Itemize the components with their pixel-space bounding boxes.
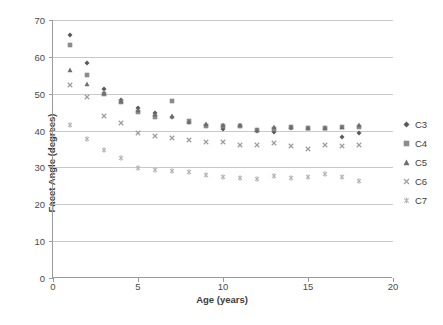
data-point-c5	[220, 122, 226, 128]
data-point-c3	[67, 32, 73, 38]
data-point-c5	[339, 124, 345, 130]
data-point-c7	[339, 173, 346, 180]
data-point-c6	[305, 145, 312, 152]
data-point-c7	[118, 155, 125, 162]
y-tick-mark	[49, 241, 53, 242]
data-point-c6	[67, 81, 74, 88]
cross-marker-icon	[400, 175, 413, 188]
data-point-c4	[67, 42, 73, 48]
y-tick-mark	[49, 57, 53, 58]
x-tick-label: 20	[378, 281, 408, 292]
gridline	[53, 204, 393, 205]
data-point-c7	[67, 121, 74, 128]
data-point-c6	[118, 120, 125, 127]
data-point-c6	[135, 130, 142, 137]
data-point-c6	[237, 142, 244, 149]
diamond-marker-icon	[400, 118, 413, 131]
data-point-c5	[305, 125, 311, 131]
legend-item-c5[interactable]: C5	[400, 153, 443, 172]
x-tick-label: 10	[208, 281, 238, 292]
legend-label: C7	[415, 195, 427, 206]
legend-label: C3	[415, 119, 427, 130]
data-point-c6	[322, 141, 329, 148]
y-tick-label: 40	[13, 125, 45, 136]
data-point-c5	[254, 127, 260, 133]
data-point-c6	[186, 137, 193, 144]
data-point-c7	[203, 172, 210, 179]
gridline	[53, 57, 393, 58]
data-point-c4	[169, 98, 175, 104]
y-tick-label: 20	[13, 199, 45, 210]
facet-angle-scatter-chart: Facet Angle (degrees) Age (years) 010203…	[0, 0, 443, 325]
x-axis-title: Age (years)	[52, 294, 392, 305]
gridline	[53, 167, 393, 168]
data-point-c6	[288, 142, 295, 149]
data-point-c7	[152, 166, 159, 173]
data-point-c6	[203, 138, 210, 145]
x-tick-label: 15	[293, 281, 323, 292]
x-tick-label: 0	[38, 281, 68, 292]
data-point-c7	[288, 174, 295, 181]
chart-legend: C3C4C5C6C7	[400, 115, 443, 210]
y-tick-mark	[49, 204, 53, 205]
data-point-c6	[152, 132, 159, 139]
legend-label: C4	[415, 138, 427, 149]
square-marker-icon	[400, 137, 413, 150]
data-point-c5	[84, 81, 90, 87]
gridline	[53, 20, 393, 21]
data-point-c7	[220, 174, 227, 181]
y-tick-mark	[49, 167, 53, 168]
data-point-c5	[203, 121, 209, 127]
data-point-c6	[220, 138, 227, 145]
data-point-c5	[152, 111, 158, 117]
data-point-c6	[101, 113, 108, 120]
y-tick-label: 30	[13, 162, 45, 173]
data-point-c6	[84, 94, 91, 101]
data-point-c5	[186, 119, 192, 125]
legend-label: C6	[415, 176, 427, 187]
y-tick-mark	[49, 94, 53, 95]
data-point-c6	[169, 135, 176, 142]
data-point-c5	[101, 90, 107, 96]
data-point-c6	[339, 143, 346, 150]
data-point-c3	[356, 130, 362, 136]
data-point-c3	[84, 60, 90, 66]
data-point-c7	[169, 167, 176, 174]
data-point-c6	[356, 142, 363, 149]
data-point-c6	[254, 142, 261, 149]
y-tick-label: 70	[13, 15, 45, 26]
y-tick-label: 10	[13, 236, 45, 247]
data-point-c5	[237, 122, 243, 128]
data-point-c5	[67, 67, 73, 73]
data-point-c5	[288, 124, 294, 130]
data-point-c7	[135, 165, 142, 172]
data-point-c5	[135, 107, 141, 113]
data-point-c6	[271, 139, 278, 146]
y-tick-label: 50	[13, 88, 45, 99]
data-point-c7	[305, 174, 312, 181]
legend-item-c7[interactable]: C7	[400, 191, 443, 210]
y-tick-mark	[49, 131, 53, 132]
legend-item-c6[interactable]: C6	[400, 172, 443, 191]
data-point-c3	[339, 134, 345, 140]
data-point-c7	[84, 135, 91, 142]
data-point-c4	[84, 72, 90, 78]
triangle-marker-icon	[400, 156, 413, 169]
gridline	[53, 241, 393, 242]
plot-area: 010203040506070 05101520	[52, 20, 392, 278]
x-tick-label: 5	[123, 281, 153, 292]
data-point-c7	[322, 170, 329, 177]
data-point-c7	[254, 176, 261, 183]
asterisk-marker-icon	[400, 194, 413, 207]
data-point-c5	[271, 124, 277, 130]
data-point-c5	[169, 113, 175, 119]
data-point-c7	[101, 147, 108, 154]
legend-label: C5	[415, 157, 427, 168]
data-point-c5	[118, 98, 124, 104]
data-point-c7	[356, 177, 363, 184]
y-tick-label: 60	[13, 51, 45, 62]
legend-item-c3[interactable]: C3	[400, 115, 443, 134]
data-point-c5	[322, 125, 328, 131]
y-tick-mark	[49, 20, 53, 21]
legend-item-c4[interactable]: C4	[400, 134, 443, 153]
